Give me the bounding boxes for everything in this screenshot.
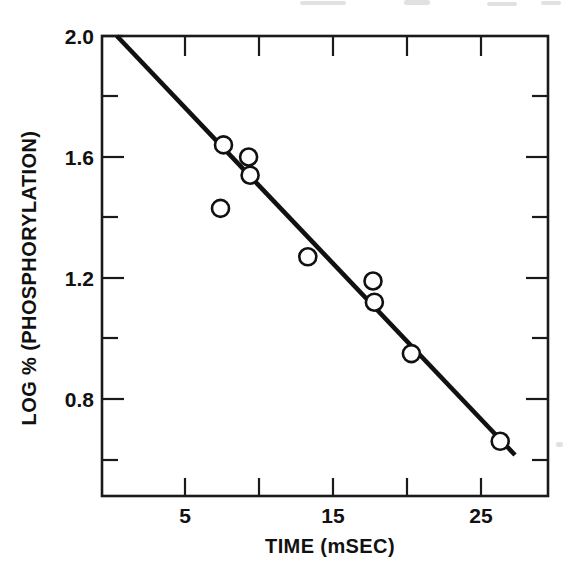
scatter-plot: 2.0 1.6 1.2 0.8 5 15 25 TIME (mSEC) LOG …: [0, 0, 579, 575]
plot-frame: [102, 36, 548, 496]
y-axis-ticks: [102, 36, 124, 460]
y-tick-label-1-2: 1.2: [65, 267, 94, 290]
data-point: [365, 273, 382, 290]
figure-container: 2.0 1.6 1.2 0.8 5 15 25 TIME (mSEC) LOG …: [0, 0, 579, 575]
x-tick-label-15: 15: [321, 504, 345, 527]
data-point: [212, 200, 229, 217]
data-point: [299, 248, 316, 265]
data-point: [242, 167, 259, 184]
data-point: [366, 294, 383, 311]
x-axis-title: TIME (mSEC): [265, 535, 395, 557]
scan-artifacts: [300, 0, 563, 447]
x-tick-label-5: 5: [179, 504, 191, 527]
x-tick-label-25: 25: [469, 504, 493, 527]
y-axis-title: LOG % (PHOSPHORYLATION): [18, 131, 40, 426]
data-point: [492, 433, 509, 450]
data-point: [215, 136, 232, 153]
data-point: [403, 345, 420, 362]
y-tick-label-1-6: 1.6: [65, 146, 94, 169]
regression-line: [117, 36, 515, 455]
y-tick-label-0-8: 0.8: [65, 388, 95, 411]
x-axis-ticks: [185, 478, 481, 496]
data-point: [240, 149, 257, 166]
y-tick-label-2-0: 2.0: [65, 25, 94, 48]
top-axis-ticks: [185, 36, 481, 56]
right-axis-ticks: [526, 96, 548, 460]
